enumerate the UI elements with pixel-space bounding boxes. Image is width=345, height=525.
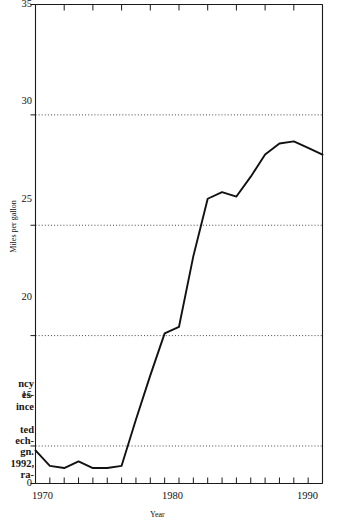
chart-canvas: [0, 0, 345, 525]
x-tick-label-1970: 1970: [32, 490, 53, 501]
x-tick-label-1980: 1980: [162, 490, 183, 501]
gridlines: [36, 115, 323, 446]
x-axis-title: Year: [150, 510, 165, 519]
y-tick-label-30: 30: [10, 95, 32, 106]
y-tick-label-20: 20: [10, 291, 32, 302]
series-line-miles-per-gallon: [36, 141, 323, 468]
mpg-line-chart: 35 30 25 20 15 0 1970 1980 1990 Miles pe…: [0, 0, 345, 525]
data-series-line: [36, 141, 323, 468]
y-tick-label-35: 35: [10, 0, 32, 9]
x-tick-label-1990: 1990: [297, 490, 318, 501]
top-axis-ticks: [36, 5, 323, 11]
y-tick-label-0: 0: [10, 477, 32, 488]
y-tick-label-15: 15: [10, 389, 32, 400]
plot-frame: [36, 5, 323, 484]
x-axis-ticks: [36, 478, 323, 484]
y-axis-ticks: [31, 5, 36, 484]
y-axis-title: Miles per gallon: [9, 182, 18, 272]
